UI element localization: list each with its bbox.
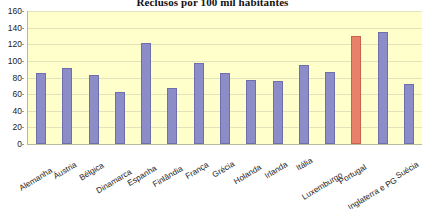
y-tick-mark bbox=[21, 61, 24, 62]
bar[interactable] bbox=[141, 43, 151, 144]
bar[interactable] bbox=[273, 81, 283, 144]
y-tick-mark bbox=[21, 28, 24, 29]
y-axis: 160140120100806040200 bbox=[0, 11, 24, 144]
bar[interactable] bbox=[325, 72, 335, 144]
x-tick-label-text: Alemanha bbox=[18, 166, 54, 193]
bar-slot bbox=[133, 11, 159, 144]
bar[interactable] bbox=[299, 65, 309, 144]
bars-container bbox=[28, 11, 422, 144]
bar-slot bbox=[264, 11, 290, 144]
chart-title: Reclusos por 100 mil habitantes bbox=[0, 0, 425, 9]
bar-slot bbox=[212, 11, 238, 144]
y-tick-label: 120 bbox=[8, 40, 22, 48]
bar[interactable] bbox=[351, 36, 361, 144]
y-tick-label: 160 bbox=[8, 7, 22, 15]
bar[interactable] bbox=[89, 75, 99, 144]
y-tick-mark bbox=[21, 44, 24, 45]
bar-slot bbox=[238, 11, 264, 144]
y-tick-mark bbox=[21, 144, 24, 145]
bar-chart: Reclusos por 100 mil habitantes 16014012… bbox=[0, 0, 425, 209]
bar-slot bbox=[107, 11, 133, 144]
bar[interactable] bbox=[378, 32, 388, 144]
y-tick-mark bbox=[21, 94, 24, 95]
y-tick-mark bbox=[21, 127, 24, 128]
y-tick-label: 140 bbox=[8, 24, 22, 32]
y-tick-mark bbox=[21, 11, 24, 12]
bar[interactable] bbox=[220, 73, 230, 144]
bar[interactable] bbox=[36, 73, 46, 144]
x-tick-label: Bélgica bbox=[100, 147, 128, 169]
x-axis: AlemanhaÁustriaBélgicaDinamarcaEspanhaFi… bbox=[27, 145, 421, 209]
bar-slot bbox=[186, 11, 212, 144]
bar[interactable] bbox=[246, 80, 256, 144]
x-tick-label-text: Luxemburgo bbox=[301, 170, 345, 201]
bar[interactable] bbox=[167, 88, 177, 144]
y-tick-label: 100 bbox=[8, 57, 22, 65]
bar-slot bbox=[396, 11, 422, 144]
plot-area bbox=[27, 11, 422, 145]
y-tick-mark bbox=[21, 111, 24, 112]
bar-slot bbox=[81, 11, 107, 144]
bar-slot bbox=[317, 11, 343, 144]
bar[interactable] bbox=[194, 63, 204, 144]
bar[interactable] bbox=[404, 84, 414, 144]
bar-slot bbox=[159, 11, 185, 144]
bar[interactable] bbox=[115, 92, 125, 144]
y-tick-mark bbox=[21, 78, 24, 79]
x-tick-label: Grécia bbox=[231, 147, 256, 167]
x-tick-label: Itália bbox=[309, 147, 328, 164]
x-tick-label: Suécia bbox=[415, 147, 425, 168]
bar-slot bbox=[54, 11, 80, 144]
bar[interactable] bbox=[62, 68, 72, 144]
x-tick-label-text: Inglaterra e PG bbox=[346, 176, 398, 209]
bar-slot bbox=[291, 11, 317, 144]
bar-slot bbox=[343, 11, 369, 144]
bar-slot bbox=[369, 11, 395, 144]
bar-slot bbox=[28, 11, 54, 144]
